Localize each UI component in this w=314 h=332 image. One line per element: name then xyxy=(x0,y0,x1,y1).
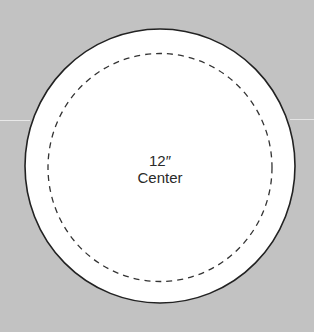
size-label: 12″ xyxy=(110,152,210,169)
guide-line-left xyxy=(0,120,30,121)
guide-line-right xyxy=(290,119,314,120)
center-label: 12″ Center xyxy=(110,152,210,186)
diagram-canvas: 12″ Center xyxy=(0,0,314,332)
position-label: Center xyxy=(110,169,210,186)
